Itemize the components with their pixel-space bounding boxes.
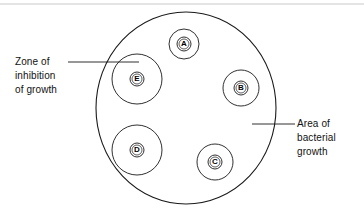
- zone-of-inhibition-label: Zone of inhibition of growth: [15, 55, 57, 97]
- zone-of-inhibition-b: [223, 70, 259, 106]
- area-label-line-2: bacterial: [297, 131, 336, 145]
- antibiotic-disc-c-inner-ring: [210, 157, 220, 167]
- zone-of-inhibition-e: [112, 54, 162, 104]
- antibiotic-disc-e-inner-ring: [132, 74, 142, 84]
- area-label-line-3: growth: [297, 145, 336, 159]
- zone-of-inhibition-d: [112, 125, 162, 175]
- area-label-line-1: Area of: [297, 117, 336, 131]
- zone-of-inhibition-a: [169, 29, 199, 59]
- diagram-canvas: [0, 0, 364, 211]
- antibiotic-disc-a-inner-ring: [179, 39, 189, 49]
- antibiotic-disc-d-inner-ring: [132, 145, 142, 155]
- inhibition-zones-group: [112, 29, 259, 180]
- area-of-bacterial-growth-label: Area of bacterial growth: [297, 117, 336, 159]
- petri-dish-diagram: A B C D E Zone of inhibition of growth A…: [0, 0, 364, 211]
- zone-label-line-2: inhibition: [15, 69, 57, 83]
- antibiotic-disc-b-inner-ring: [236, 83, 246, 93]
- leader-lines-group: [68, 62, 295, 124]
- bacterial-growth-dish: [96, 12, 276, 204]
- zone-label-line-3: of growth: [15, 83, 57, 97]
- zone-of-inhibition-c: [197, 144, 233, 180]
- zone-label-line-1: Zone of: [15, 55, 57, 69]
